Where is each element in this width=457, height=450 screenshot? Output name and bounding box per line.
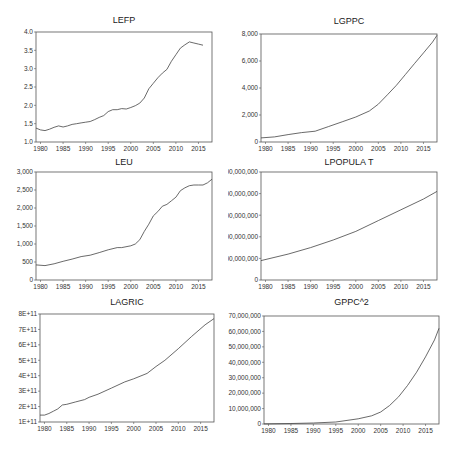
y-tick-label: 8E+11 — [19, 310, 38, 317]
chart-lpopulat: LPOPULA T0200,000,000400,000,000600,000,… — [228, 148, 457, 296]
x-tick-label: 2000 — [351, 427, 366, 434]
plot-frame — [40, 314, 214, 422]
x-tick-label: 2000 — [126, 425, 141, 432]
x-tick-label: 1985 — [284, 427, 299, 434]
chart-title: LAGRIC — [110, 297, 144, 307]
y-tick-label: 200,000,000 — [228, 255, 258, 262]
chart-title: LGPPC — [334, 16, 365, 26]
x-tick-label: 1985 — [281, 283, 296, 290]
x-tick-label: 1990 — [78, 283, 93, 290]
x-tick-label: 1990 — [306, 427, 321, 434]
y-tick-label: 2,500 — [17, 186, 34, 193]
chart-title: GPPC^2 — [334, 297, 369, 307]
y-tick-label: 8,000 — [242, 30, 259, 37]
x-tick-label: 2005 — [149, 425, 164, 432]
chart-lpopulat-svg: LPOPULA T0200,000,000400,000,000600,000,… — [228, 148, 457, 296]
y-tick-label: 2,000 — [242, 111, 259, 118]
chart-title: LEU — [115, 157, 133, 167]
y-tick-label: 30,000,000 — [228, 374, 261, 381]
x-tick-label: 1980 — [258, 283, 273, 290]
y-tick-label: 1,500 — [17, 222, 34, 229]
y-tick-label: 1,000,000,000 — [228, 168, 258, 175]
y-tick-label: 7E+11 — [19, 326, 38, 333]
x-tick-label: 1980 — [37, 425, 52, 432]
x-tick-label: 2015 — [193, 425, 208, 432]
x-tick-label: 1995 — [329, 427, 344, 434]
y-tick-label: 3.5 — [24, 47, 33, 54]
y-tick-label: 4E+11 — [19, 372, 38, 379]
chart-lefp: LEFP1.01.52.02.53.03.54.0198019851990199… — [0, 0, 228, 152]
x-tick-label: 2010 — [394, 283, 409, 290]
x-tick-label: 2010 — [171, 425, 186, 432]
chart-lagric-svg: LAGRIC1E+112E+113E+114E+115E+116E+117E+1… — [0, 292, 228, 450]
y-tick-label: 3E+11 — [19, 387, 38, 394]
chart-title: LPOPULA T — [325, 157, 374, 167]
x-tick-label: 1995 — [104, 425, 119, 432]
x-tick-label: 2015 — [416, 283, 431, 290]
y-tick-label: 2.5 — [24, 83, 33, 90]
x-tick-label: 2000 — [124, 283, 139, 290]
y-tick-label: 3.0 — [24, 65, 33, 72]
y-tick-label: 500 — [22, 258, 33, 265]
chart-leu-svg: LEU05001,0001,5002,0002,5003,00019801985… — [0, 148, 228, 296]
chart-lgppc: LGPPC02,0004,0006,0008,00019801985199019… — [228, 0, 457, 152]
plot-frame — [36, 32, 212, 142]
y-tick-label: 800,000,000 — [228, 190, 258, 197]
x-tick-label: 2010 — [169, 283, 184, 290]
y-tick-label: 1.5 — [24, 120, 33, 127]
y-tick-label: 6E+11 — [19, 341, 38, 348]
x-tick-label: 2000 — [349, 283, 364, 290]
y-tick-label: 5E+11 — [19, 357, 38, 364]
x-tick-label: 2005 — [371, 283, 386, 290]
y-tick-label: 70,000,000 — [228, 312, 261, 319]
y-tick-label: 4.0 — [24, 28, 33, 35]
x-tick-label: 1995 — [326, 283, 341, 290]
x-tick-label: 2010 — [396, 427, 411, 434]
y-tick-label: 1.0 — [24, 138, 33, 145]
chart-leu: LEU05001,0001,5002,0002,5003,00019801985… — [0, 148, 228, 296]
x-tick-label: 1990 — [82, 425, 97, 432]
x-tick-label: 2015 — [418, 427, 433, 434]
plot-frame — [36, 172, 212, 280]
plot-frame — [261, 34, 437, 142]
y-tick-label: 2E+11 — [19, 403, 38, 410]
plot-frame — [264, 316, 439, 424]
plot-frame — [261, 172, 437, 280]
y-tick-label: 50,000,000 — [228, 343, 261, 350]
chart-lagric: LAGRIC1E+112E+113E+114E+115E+116E+117E+1… — [0, 292, 228, 450]
chart-gppc2: GPPC^2010,000,00020,000,00030,000,00040,… — [228, 292, 457, 450]
y-tick-label: 4,000 — [242, 84, 259, 91]
y-tick-label: 1,000 — [17, 240, 34, 247]
y-tick-label: 40,000,000 — [228, 359, 261, 366]
y-tick-label: 60,000,000 — [228, 328, 261, 335]
chart-title: LEFP — [113, 15, 136, 25]
x-tick-label: 1980 — [261, 427, 276, 434]
y-tick-label: 2,000 — [17, 204, 34, 211]
chart-gppc2-svg: GPPC^2010,000,00020,000,00030,000,00040,… — [228, 292, 457, 450]
x-tick-label: 2015 — [191, 283, 206, 290]
x-tick-label: 1980 — [33, 283, 48, 290]
y-tick-label: 6,000 — [242, 57, 259, 64]
y-tick-label: 600,000,000 — [228, 212, 258, 219]
x-tick-label: 1995 — [101, 283, 116, 290]
x-tick-label: 1985 — [60, 425, 75, 432]
x-tick-label: 2005 — [146, 283, 161, 290]
chart-lefp-svg: LEFP1.01.52.02.53.03.54.0198019851990199… — [0, 0, 228, 152]
y-tick-label: 3,000 — [17, 168, 34, 175]
y-tick-label: 2.0 — [24, 102, 33, 109]
y-tick-label: 400,000,000 — [228, 233, 258, 240]
y-tick-label: 20,000,000 — [228, 389, 261, 396]
x-tick-label: 1985 — [56, 283, 71, 290]
x-tick-label: 1990 — [303, 283, 318, 290]
y-tick-label: 10,000,000 — [228, 405, 261, 412]
y-tick-label: 1E+11 — [19, 418, 38, 425]
x-tick-label: 2005 — [373, 427, 388, 434]
chart-lgppc-svg: LGPPC02,0004,0006,0008,00019801985199019… — [228, 0, 457, 152]
